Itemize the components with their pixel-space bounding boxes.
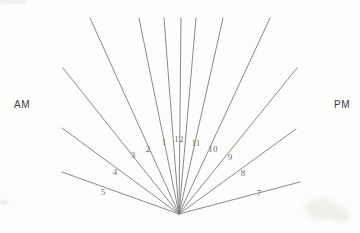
hour-label-2: 2: [146, 145, 151, 154]
hour-label-7: 7: [257, 189, 262, 198]
hour-line-2: [139, 18, 179, 214]
hour-line-11: [179, 18, 196, 214]
hour-line-10: [179, 18, 223, 214]
hour-line-6b: [179, 182, 300, 214]
hour-label-9: 9: [228, 153, 233, 162]
hour-line-1: [164, 18, 179, 214]
am-label: AM: [14, 100, 30, 110]
hour-label-4: 4: [113, 168, 118, 177]
hour-lines-svg: [0, 0, 360, 233]
pm-label: PM: [334, 100, 350, 110]
hour-label-11: 11: [191, 139, 200, 148]
hour-line-3: [90, 18, 179, 214]
hour-label-1: 1: [162, 138, 167, 147]
hour-line-12: [179, 18, 181, 214]
sundial-diagram: 54321121110987 AM PM: [0, 0, 360, 233]
hour-label-5: 5: [101, 188, 106, 197]
hour-label-12: 12: [174, 135, 183, 144]
hour-label-3: 3: [131, 151, 136, 160]
hour-label-8: 8: [241, 169, 246, 178]
hour-line-9: [179, 18, 270, 214]
hour-line-6: [62, 172, 179, 214]
hour-label-10: 10: [208, 145, 217, 154]
